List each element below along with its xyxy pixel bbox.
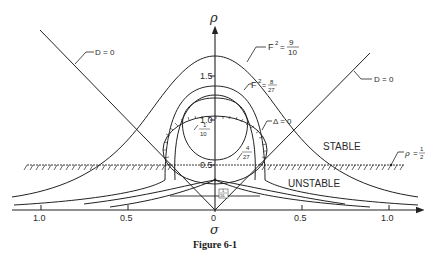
svg-text:9: 9 (289, 38, 294, 47)
y-tick-label: 1.5 (200, 71, 213, 81)
svg-text:10: 10 (288, 48, 297, 57)
label-f2-9-10: F 2 = 9 10 (247, 38, 299, 62)
figure-caption: Figure 6-1 (193, 239, 237, 250)
x-tick-label: 0.5 (120, 213, 133, 223)
rho-half-label: ρ = 1 2 (404, 146, 425, 160)
svg-text:ρ: ρ (404, 149, 410, 158)
label-f2-8-27: F 2 = 8 27 (244, 78, 277, 93)
label-4-27: 4 27 (237, 145, 252, 160)
x-axis-label: σ (210, 222, 220, 237)
svg-text:=: = (280, 43, 285, 52)
d-zero-label-left: D = 0 (95, 48, 115, 57)
label-delta-zero: Δ = 0 (262, 117, 292, 130)
svg-text:2: 2 (275, 40, 279, 46)
svg-text:4: 4 (246, 145, 250, 151)
x-tick-label: 1.0 (33, 213, 46, 223)
label-1-16: 1 16 (219, 188, 228, 198)
svg-text:=: = (413, 149, 418, 158)
axes (12, 30, 420, 212)
svg-text:=: = (262, 82, 266, 89)
svg-text:10: 10 (200, 131, 207, 137)
region-unstable-label: UNSTABLE (288, 178, 340, 189)
figure-6-1: 1.0 0.5 0 0.5 1.0 0.5 1.0 1.5 ρ σ D = 0 … (0, 0, 438, 262)
svg-text:F: F (268, 42, 274, 52)
region-stable-label: STABLE (323, 141, 361, 152)
svg-text:27: 27 (268, 87, 275, 93)
x-tick-label: 0.5 (294, 213, 307, 223)
d-zero-label-right: D = 0 (374, 75, 394, 84)
svg-text:8: 8 (270, 79, 274, 85)
svg-text:1: 1 (420, 146, 424, 152)
x-tick-label: 1.0 (381, 213, 394, 223)
svg-text:2: 2 (420, 154, 424, 160)
svg-text:16: 16 (220, 193, 225, 198)
svg-text:27: 27 (243, 154, 250, 160)
svg-text:F: F (251, 80, 257, 90)
y-axis-label: ρ (209, 10, 218, 25)
svg-text:Δ = 0: Δ = 0 (273, 117, 292, 126)
